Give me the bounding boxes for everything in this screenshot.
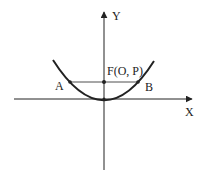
vertex-point xyxy=(103,98,106,101)
x-axis-label: X xyxy=(185,105,194,119)
point-b-label: B xyxy=(145,80,153,94)
focus-point xyxy=(102,80,106,84)
point-a xyxy=(68,80,72,84)
focus-label: F(O, P) xyxy=(107,64,143,78)
parabola-diagram: Y X A B F(O, P) xyxy=(0,0,203,179)
point-a-label: A xyxy=(55,79,64,93)
y-axis-label: Y xyxy=(112,9,121,23)
point-b xyxy=(136,80,140,84)
